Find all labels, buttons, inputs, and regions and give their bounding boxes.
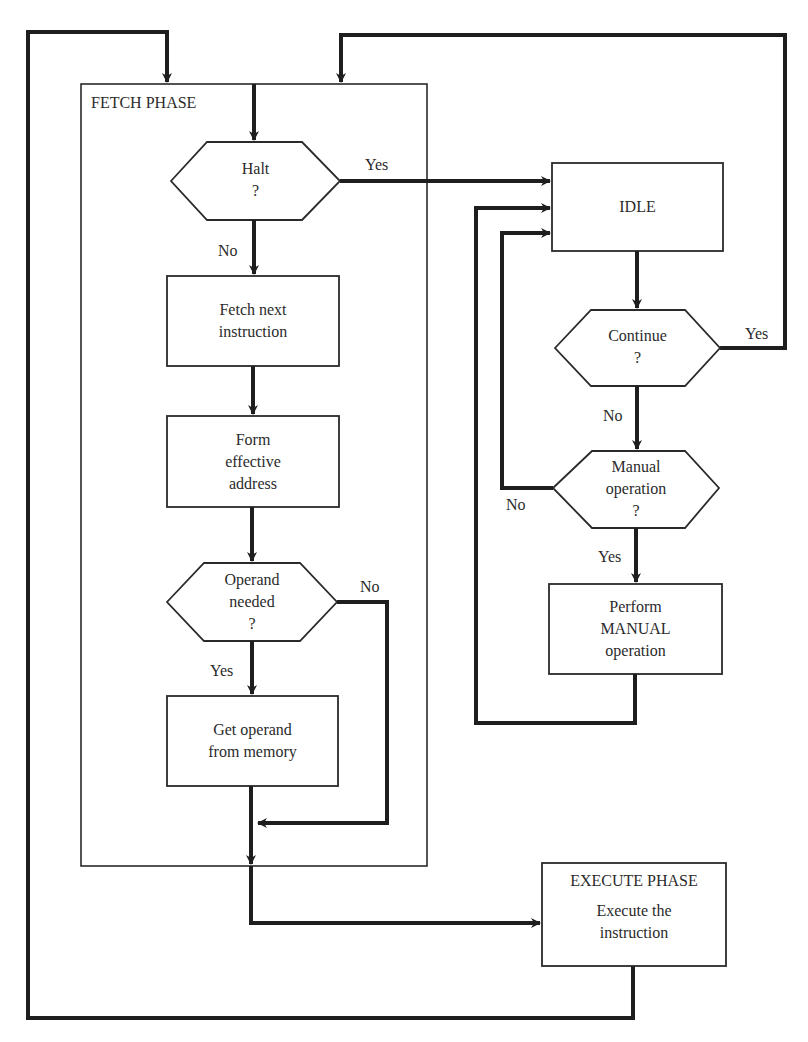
manual-line-3: ? [632,500,639,522]
execute-line-1: Execute the [596,900,671,922]
get-operand-line-2: from memory [208,741,296,763]
continue-line-2: ? [634,347,641,369]
idle-line-1: IDLE [619,196,655,218]
continue-yes-label: Yes [745,323,768,345]
halt-line-2: ? [252,180,259,202]
execute-phase-node: EXECUTE PHASE Execute the instruction [542,870,726,960]
perform-manual-node: Perform MANUAL operation [549,584,722,674]
flowchart-canvas: FETCH PHASE Halt ? Yes No Fetch next ins… [0,0,808,1042]
form-address-line-2: effective [225,451,281,473]
halt-yes-label: Yes [365,154,388,176]
manual-no-label: No [506,494,526,516]
manual-decision: Manual operation ? [553,454,719,524]
get-operand-line-1: Get operand [213,719,292,741]
halt-decision: Halt ? [171,158,340,202]
operand-no-label: No [360,576,380,598]
manual-yes-label: Yes [598,546,621,568]
continue-decision: Continue ? [555,314,720,380]
operand-line-1: Operand [224,569,279,591]
operand-line-2: needed [229,591,274,613]
fetch-next-node: Fetch next instruction [167,276,339,366]
continue-no-label: No [603,405,623,427]
execute-phase-title: EXECUTE PHASE [570,870,698,892]
execute-line-2: instruction [600,922,668,944]
operand-yes-label: Yes [210,660,233,682]
continue-line-1: Continue [608,325,667,347]
fetch-phase-title: FETCH PHASE [91,92,196,114]
halt-line-1: Halt [242,158,270,180]
operand-line-3: ? [248,613,255,635]
form-address-node: Form effective address [167,416,339,507]
get-operand-node: Get operand from memory [167,696,338,786]
halt-no-label: No [218,240,238,262]
manual-line-1: Manual [612,456,661,478]
fetch-next-line-1: Fetch next [219,299,286,321]
perform-line-1: Perform [609,596,661,618]
operand-decision: Operand needed ? [167,566,337,638]
form-address-line-1: Form [236,429,271,451]
idle-node: IDLE [552,163,723,251]
fetch-to-execute-arrow [251,866,540,923]
manual-line-2: operation [606,478,666,500]
perform-line-2: MANUAL [600,618,670,640]
fetch-next-line-2: instruction [219,321,287,343]
form-address-line-3: address [229,473,277,495]
manual-no-loop [502,233,553,488]
perform-line-3: operation [605,640,665,662]
